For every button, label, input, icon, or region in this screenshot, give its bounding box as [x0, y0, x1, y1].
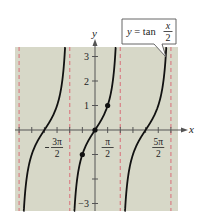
y-axis-label: y	[91, 27, 97, 39]
svg-text:2: 2	[105, 149, 110, 159]
data-point	[92, 127, 97, 132]
svg-text:2: 2	[156, 149, 161, 159]
svg-text:π: π	[105, 137, 110, 147]
svg-text:5π: 5π	[153, 137, 163, 147]
y-tick-label: 2	[84, 76, 89, 87]
svg-text:2: 2	[166, 32, 171, 43]
svg-text:3π: 3π	[52, 137, 62, 147]
data-point	[80, 152, 85, 157]
y-tick-label: 1	[84, 100, 89, 111]
tangent-graph: xy321−33π2π25π2 y = tanx2	[0, 0, 203, 221]
svg-text:x: x	[165, 20, 171, 31]
data-point	[105, 103, 110, 108]
svg-text:2: 2	[55, 149, 60, 159]
x-axis-arrow-icon	[181, 128, 188, 133]
y-axis-arrow-icon	[93, 39, 98, 46]
y-tick-label: −3	[78, 198, 89, 209]
y-tick-label: 3	[84, 51, 89, 62]
x-axis-label: x	[188, 123, 194, 135]
svg-text:y = tan: y = tan	[126, 26, 156, 37]
